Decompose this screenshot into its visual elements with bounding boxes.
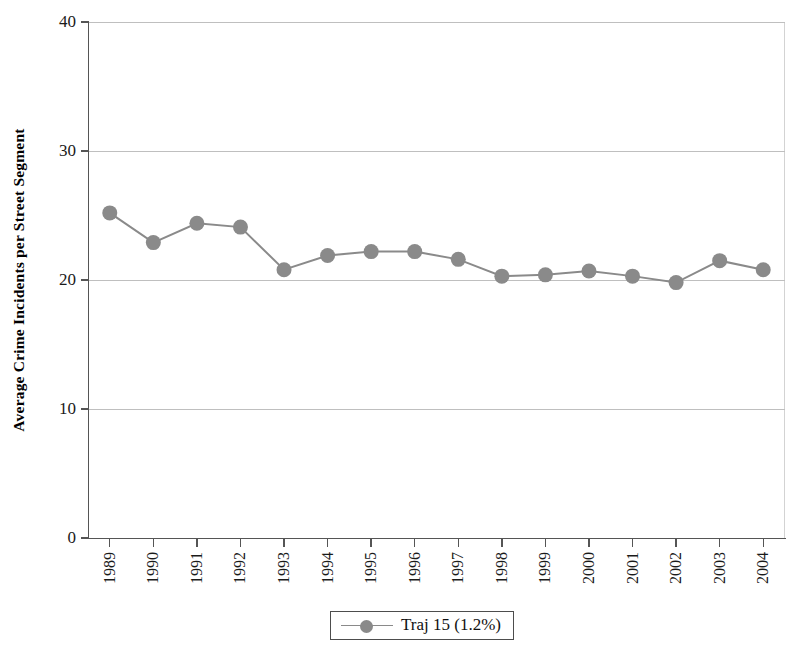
chart-figure: Average Crime Incidents per Street Segme… [0, 0, 802, 670]
data-point-2004 [756, 262, 771, 277]
data-point-1999 [538, 267, 553, 282]
data-point-1991 [189, 216, 204, 231]
data-point-1992 [233, 220, 248, 235]
data-series-layer [0, 0, 802, 670]
series-markers-traj-15 [102, 205, 770, 290]
series-line-traj-15 [110, 213, 763, 283]
data-point-1990 [146, 235, 161, 250]
data-point-1995 [364, 244, 379, 259]
data-point-2003 [712, 253, 727, 268]
legend-circle-marker-icon [360, 620, 373, 633]
data-point-1997 [451, 252, 466, 267]
data-point-2002 [669, 275, 684, 290]
data-point-1994 [320, 248, 335, 263]
data-point-1998 [494, 269, 509, 284]
data-point-2000 [581, 263, 596, 278]
chart-legend: Traj 15 (1.2%) [330, 611, 514, 640]
data-point-1989 [102, 205, 117, 220]
legend-swatch [341, 617, 393, 633]
legend-label: Traj 15 (1.2%) [401, 616, 501, 634]
data-point-1993 [277, 262, 292, 277]
data-point-2001 [625, 269, 640, 284]
data-point-1996 [407, 244, 422, 259]
